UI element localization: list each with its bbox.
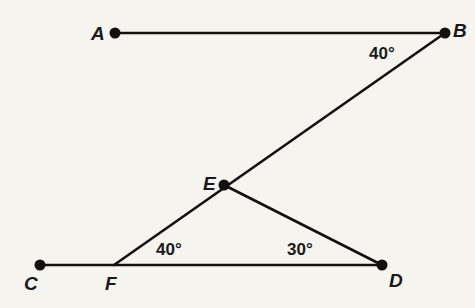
label-C: C — [24, 273, 38, 294]
label-A: A — [90, 23, 105, 44]
label-E: E — [203, 173, 217, 194]
point-E — [219, 180, 230, 191]
point-A — [110, 28, 121, 39]
label-B: B — [453, 20, 467, 41]
angle-label-F: 40° — [156, 240, 182, 259]
point-D — [377, 260, 388, 271]
point-B — [440, 28, 451, 39]
angle-label-B: 40° — [369, 44, 395, 63]
label-D: D — [389, 270, 403, 291]
point-C — [35, 260, 46, 271]
label-F: F — [105, 273, 118, 294]
segment-BF — [114, 33, 445, 265]
angle-label-D: 30° — [287, 240, 313, 259]
geometry-figure: A B C D E F 40° 40° 30° — [0, 0, 475, 308]
